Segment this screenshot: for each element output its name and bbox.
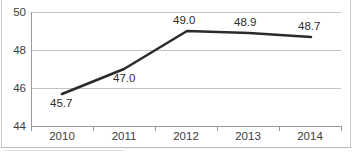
line-chart: 50 48 46 44 2010 2011 2012 2013 2014 45.… <box>0 0 352 153</box>
data-label-2014: 48.7 <box>298 21 320 33</box>
data-label-2011: 47.0 <box>113 73 135 85</box>
data-label-2012: 49.0 <box>173 15 195 27</box>
data-label-2013: 48.9 <box>234 17 256 29</box>
data-label-2010: 45.7 <box>50 98 72 110</box>
series-line <box>62 31 311 94</box>
